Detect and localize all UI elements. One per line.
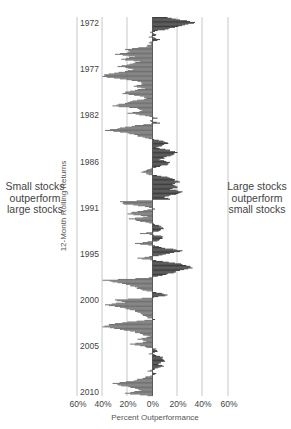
year-label: 1986 [80,157,104,167]
right-annotation: Large stocks outperform small stocks [222,181,291,216]
year-label: 1991 [80,203,104,213]
x-axis-label: Percent Outperformance [80,413,230,422]
year-label: 1995 [80,249,104,259]
year-label: 2000 [80,295,104,305]
year-label: 1977 [80,64,104,74]
bars [103,17,196,396]
year-label: 1972 [80,18,104,28]
year-label: 1982 [80,110,104,120]
x-tick: 60% [214,399,244,409]
y-axis-label: 12-Month Rolling Returns [59,151,71,261]
year-label: 2005 [80,341,104,351]
year-label: 2010 [80,387,104,397]
